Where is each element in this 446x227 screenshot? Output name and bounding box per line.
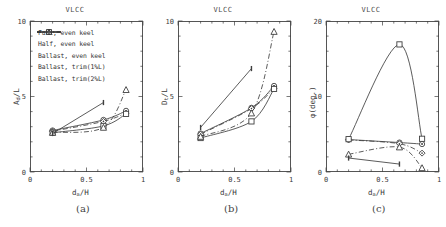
panel-a-ylabel: Ad/L xyxy=(12,88,21,105)
series-1 xyxy=(198,83,277,136)
panel-b: VLCC 00.510510 Dt/L da/H (b) xyxy=(148,0,298,227)
tick-label: 0.5 xyxy=(228,176,241,184)
panel-c-ylabel: φ(deg.) xyxy=(308,86,317,118)
tick-label: 1 xyxy=(141,176,145,184)
tick-label: 10 xyxy=(166,18,174,26)
legend-label: Ballast, trim(2%L) xyxy=(36,76,105,82)
legend: Full, even keel Half, even keel Ballast,… xyxy=(36,27,105,85)
tick-label: 0 xyxy=(28,176,32,184)
data-point-marker xyxy=(397,42,402,47)
data-point-marker xyxy=(123,87,129,93)
data-point-marker xyxy=(346,137,351,142)
tick-label: 5 xyxy=(22,93,26,101)
panel-b-xlabel: da/H xyxy=(220,188,237,197)
legend-item: Ballast, trim(1%L) xyxy=(36,62,105,74)
tick-label: 20 xyxy=(314,18,322,26)
data-point-marker xyxy=(419,165,425,171)
data-point-marker xyxy=(249,119,254,124)
panel-a: VLCC 00.510510 Ad/L da/H (a) Full, even … xyxy=(0,0,150,227)
series-line xyxy=(201,69,252,128)
legend-label: Ballast, trim(1%L) xyxy=(36,64,105,70)
figure-root: VLCC 00.510510 Ad/L da/H (a) Full, even … xyxy=(0,0,446,227)
panel-c: VLCC 00.5101020 φ(deg.) da/H (c) xyxy=(296,0,446,227)
legend-item: Half, even keel xyxy=(36,39,105,51)
data-point-marker xyxy=(419,136,424,141)
data-point-marker xyxy=(123,111,128,116)
data-point-marker xyxy=(271,86,276,91)
tick-label: 10 xyxy=(18,18,26,26)
panel-a-caption: (a) xyxy=(76,203,90,214)
axis-ticks xyxy=(178,21,291,172)
series-line xyxy=(349,158,400,164)
tick-label: 5 xyxy=(170,93,174,101)
axis-ticks xyxy=(326,21,439,172)
panel-b-ylabel: Dt/L xyxy=(160,88,169,105)
legend-label: Half, even keel xyxy=(36,41,94,47)
panel-b-caption: (b) xyxy=(224,203,238,214)
series-4 xyxy=(198,28,278,139)
legend-key-ballast-trim-2 xyxy=(36,27,62,37)
data-point-marker xyxy=(248,110,254,116)
panel-c-xlabel: da/H xyxy=(368,188,385,197)
data-point-marker xyxy=(271,28,277,34)
tick-label: 0.5 xyxy=(376,176,389,184)
series-1 xyxy=(50,108,129,133)
tick-label: 0 xyxy=(318,169,322,177)
series-2 xyxy=(50,110,129,134)
panel-c-caption: (c) xyxy=(372,203,385,214)
tick-label: 1 xyxy=(289,176,293,184)
tick-label: 0 xyxy=(22,169,26,177)
tick-label: 0 xyxy=(324,176,328,184)
legend-item: Ballast, trim(2%L) xyxy=(36,73,105,85)
series-1 xyxy=(346,137,425,147)
data-point-marker xyxy=(103,121,105,123)
series-5 xyxy=(349,155,400,166)
legend-label: Ballast, even keel xyxy=(36,53,105,59)
series-line xyxy=(201,32,274,137)
tick-label: 0 xyxy=(176,176,180,184)
series-3 xyxy=(346,42,425,142)
panel-a-xlabel: da/H xyxy=(72,188,89,197)
series-line xyxy=(53,103,104,134)
tick-label: 0.5 xyxy=(80,176,93,184)
data-point-marker xyxy=(421,143,423,145)
tick-label: 0 xyxy=(170,169,174,177)
data-point-marker xyxy=(421,152,423,154)
series-line xyxy=(201,86,274,134)
series-3 xyxy=(198,86,277,140)
legend-item: Ballast, even keel xyxy=(36,50,105,62)
series-line xyxy=(349,147,422,168)
series-line xyxy=(349,44,422,139)
tick-label: 1 xyxy=(437,176,441,184)
series-line xyxy=(201,89,274,138)
